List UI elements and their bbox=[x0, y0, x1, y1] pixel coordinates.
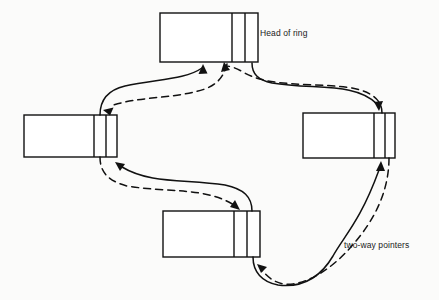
link-right-to-head-path bbox=[226, 66, 382, 113]
head-node-body bbox=[160, 13, 258, 62]
link-left-to-head bbox=[100, 64, 208, 115]
link-head-to-left bbox=[103, 64, 227, 116]
head-node bbox=[160, 13, 258, 62]
link-bottom-to-right-arrow bbox=[376, 161, 385, 171]
link-head-to-right bbox=[252, 63, 383, 111]
head-of-ring-label: Head of ring bbox=[260, 28, 308, 38]
link-bottom-to-right-path bbox=[253, 170, 379, 286]
link-bottom-to-left-arrow bbox=[115, 162, 125, 171]
link-bottom-to-right bbox=[253, 161, 385, 286]
left-node bbox=[24, 115, 117, 157]
diagram-canvas: Head of ring two-way pointers bbox=[0, 0, 439, 300]
link-left-to-head-path bbox=[100, 68, 202, 115]
link-right-to-bottom bbox=[257, 158, 389, 284]
right-node bbox=[303, 113, 395, 158]
two-way-pointers-label: two-way pointers bbox=[344, 240, 409, 250]
ring-diagram bbox=[0, 0, 439, 300]
link-right-to-head bbox=[221, 62, 382, 113]
right-node-body bbox=[303, 113, 395, 158]
link-right-to-bottom-arrow bbox=[257, 264, 267, 273]
link-right-to-bottom-path bbox=[262, 158, 389, 284]
left-node-body bbox=[24, 115, 117, 157]
bottom-node bbox=[163, 211, 260, 257]
link-left-to-bottom-arrow bbox=[230, 200, 240, 210]
link-head-to-right-path bbox=[252, 63, 377, 104]
bottom-node-body bbox=[163, 211, 260, 257]
